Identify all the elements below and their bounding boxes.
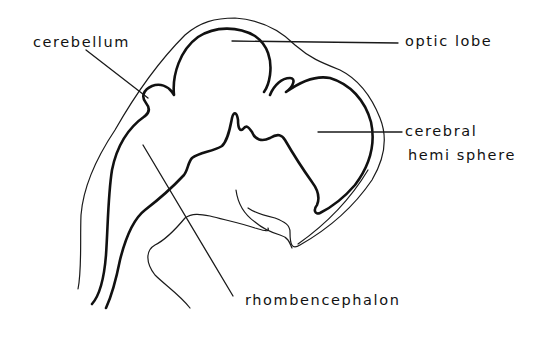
neck-stroke-outer	[92, 116, 145, 304]
lower-contour-2	[236, 190, 292, 248]
cerebellum-leader	[86, 50, 148, 98]
label-hemisphere: hemi sphere	[408, 148, 516, 163]
brain-drawing	[0, 0, 544, 338]
label-cerebellum: cerebellum	[33, 35, 130, 50]
optic-lobe-leader	[232, 41, 398, 43]
label-cerebral: cerebral	[405, 124, 477, 139]
label-optic-lobe: optic lobe	[405, 34, 492, 49]
label-rhombencephalon: rhombencephalon	[245, 293, 400, 308]
brain-diagram: cerebellum optic lobe cerebral hemi sphe…	[0, 0, 544, 338]
brain-contour	[106, 29, 373, 308]
